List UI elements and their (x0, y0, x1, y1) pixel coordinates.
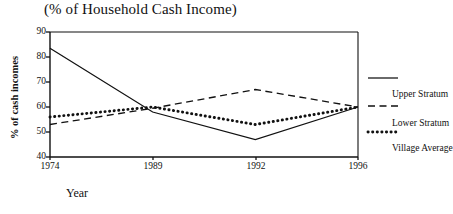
plot-frame (50, 32, 358, 157)
series-line-lower-stratum (50, 90, 358, 125)
legend-swatches (368, 78, 398, 132)
series-line-upper-stratum (50, 48, 358, 139)
